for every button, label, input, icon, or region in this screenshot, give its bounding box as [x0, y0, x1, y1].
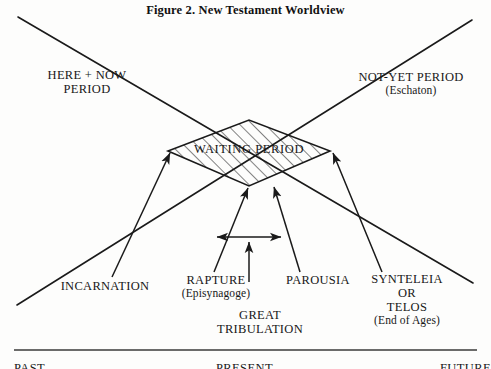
label-here-now-period: HERE + NOW PERIOD — [12, 68, 162, 96]
label-rapture: RAPTURE (Episynagoge) — [166, 273, 266, 300]
label-not-yet-period: NOT-YET PERIOD (Eschaton) — [337, 70, 485, 97]
axis-label-future: FUTURE — [440, 361, 491, 369]
label-waiting-period: WAITING PERIOD — [175, 142, 323, 156]
tribulation-line-1: GREAT — [200, 308, 320, 322]
rapture-line-1: RAPTURE — [166, 273, 266, 287]
synteleia-line-3: TELOS — [352, 300, 462, 314]
parousia-line-1: PAROUSIA — [272, 273, 364, 287]
figure-container: Figure 2. New Testament Worldview — [0, 0, 491, 369]
axis-label-present: PRESENT — [216, 361, 273, 369]
incarnation-line-1: INCARNATION — [50, 279, 160, 293]
synteleia-arrow — [333, 153, 382, 272]
label-incarnation: INCARNATION — [50, 279, 160, 293]
rapture-arrow — [214, 188, 248, 272]
label-parousia: PAROUSIA — [272, 273, 364, 287]
label-synteleia-or-telos: SYNTELEIA OR TELOS (End of Ages) — [352, 272, 462, 327]
not-yet-line-2: (Eschaton) — [337, 84, 485, 97]
here-now-line-2: PERIOD — [12, 82, 162, 96]
synteleia-line-2: OR — [352, 286, 462, 300]
synteleia-line-4: (End of Ages) — [352, 314, 462, 327]
here-now-line-1: HERE + NOW — [12, 68, 162, 82]
rapture-line-2: (Episynagoge) — [166, 287, 266, 300]
label-great-tribulation: GREAT TRIBULATION — [200, 308, 320, 336]
parousia-arrow — [274, 187, 300, 272]
tribulation-line-2: TRIBULATION — [200, 322, 320, 336]
not-yet-line-1: NOT-YET PERIOD — [337, 70, 485, 84]
axis-label-past: PAST — [14, 361, 45, 369]
synteleia-line-1: SYNTELEIA — [352, 272, 462, 286]
